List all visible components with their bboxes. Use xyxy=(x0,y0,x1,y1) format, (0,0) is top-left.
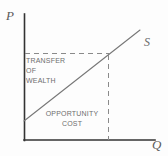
transfer-line-2: OF xyxy=(26,66,65,76)
transfer-of-wealth-annotation: TRANSFER OF WEALTH xyxy=(26,56,65,86)
transfer-line-3: WEALTH xyxy=(26,76,65,86)
price-axis-label: P xyxy=(6,9,14,22)
supply-curve-label: S xyxy=(144,36,150,48)
opportunity-cost-annotation: OPPORTUNITY COST xyxy=(44,109,100,129)
transfer-line-1: TRANSFER xyxy=(26,56,65,66)
opportunity-line-1: OPPORTUNITY xyxy=(44,109,100,119)
supply-curve-diagram: P Q S TRANSFER OF WEALTH OPPORTUNITY COS… xyxy=(0,0,168,156)
quantity-axis-label: Q xyxy=(152,138,161,151)
opportunity-line-2: COST xyxy=(44,119,100,129)
